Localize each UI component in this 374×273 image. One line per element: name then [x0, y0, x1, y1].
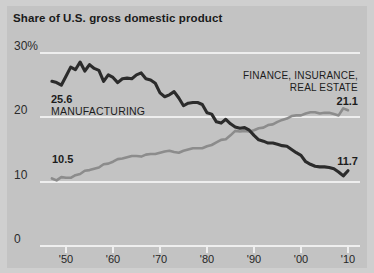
x-axis-label: '70: [140, 253, 180, 265]
line-finance-insurance-real-estate: [52, 108, 348, 180]
x-axis-line: [40, 245, 360, 247]
annotation-manufacturing-start-value: 25.6: [51, 93, 72, 105]
annotation-finance-label-line2: REAL ESTATE: [290, 82, 358, 93]
x-axis-tick: [253, 246, 255, 253]
x-axis-tick: [65, 246, 67, 253]
x-axis-label: '90: [234, 253, 274, 265]
annotation-finance-start-value: 10.5: [52, 153, 73, 165]
x-axis-tick: [206, 246, 208, 253]
x-axis-tick: [112, 246, 114, 253]
annotation-manufacturing-end-value: 11.7: [337, 155, 358, 167]
x-axis-label: '80: [187, 253, 227, 265]
x-axis-label: '00: [281, 253, 321, 265]
annotation-finance-label-line1: FINANCE, INSURANCE,: [243, 70, 358, 81]
x-axis-tick: [159, 246, 161, 253]
annotation-finance-end-value: 21.1: [337, 95, 358, 107]
annotation-manufacturing-label: MANUFACTURING: [51, 105, 145, 117]
x-axis-label: '50: [46, 253, 86, 265]
x-axis-tick: [300, 246, 302, 253]
x-axis-tick: [347, 246, 349, 253]
x-axis-label: '10: [328, 253, 368, 265]
x-axis-label: '60: [93, 253, 133, 265]
chart-screenshot: Share of U.S. gross domestic product 30%…: [0, 0, 374, 273]
annotation-finance-label: FINANCE, INSURANCE,REAL ESTATE: [243, 70, 358, 94]
chart-lines: [0, 0, 374, 273]
